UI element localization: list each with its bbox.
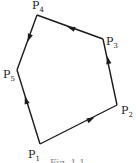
figure-caption: Fig. 1.1 xyxy=(50,158,85,163)
label-p5: P5 xyxy=(3,68,15,83)
edge-p4-p5 xyxy=(17,15,37,70)
arrowheads xyxy=(22,24,111,123)
label-p4: P4 xyxy=(32,0,44,14)
arrow-icon-p2-p3 xyxy=(105,56,112,65)
polygon-diagram: P1 P2 P3 P4 P5 Fig. 1.1 xyxy=(0,0,136,163)
arrow-icon-p3-p4 xyxy=(66,24,75,32)
label-p1: P1 xyxy=(28,148,40,163)
vertex-labels: P1 P2 P3 P4 P5 xyxy=(3,0,133,163)
label-p2: P2 xyxy=(121,104,133,119)
label-p3: P3 xyxy=(106,35,118,50)
edge-p1-p5 xyxy=(17,70,40,144)
edges xyxy=(17,15,117,144)
edge-p1-p2 xyxy=(40,105,117,144)
arrow-icon-p4-p5 xyxy=(25,33,33,42)
